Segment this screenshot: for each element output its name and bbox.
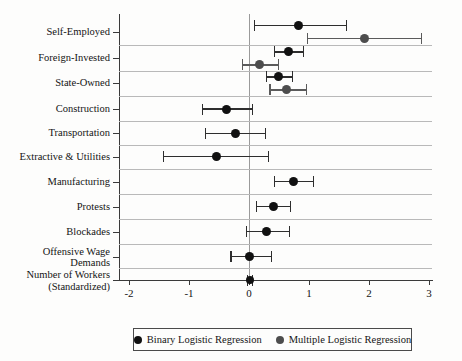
y-axis-label-manufacturing: Manufacturing [48,176,110,188]
confidence-interval-cap [230,251,231,262]
x-axis-tick [369,280,370,285]
confidence-interval-cap [278,59,279,70]
y-axis-label-state-owned: State-Owned [55,78,110,90]
x-axis-tick [129,280,130,285]
confidence-interval-cap [254,20,255,31]
confidence-interval-cap [274,46,275,57]
x-axis-tick-label: -1 [184,287,193,299]
legend-label-binary: Binary Logistic Regression [147,334,262,345]
y-axis-tick [113,83,119,84]
point-estimate-dot[interactable] [255,60,264,69]
legend-item-multiple[interactable]: Multiple Logistic Regression [276,334,412,345]
y-axis-label-line: Self-Employed [46,26,110,38]
x-axis-tick [429,280,430,285]
confidence-interval-cap [266,71,267,82]
confidence-interval-cap [268,151,269,162]
plot-area: Self-EmployedForeign-InvestedState-Owned… [119,14,432,280]
confidence-interval-cap [421,33,422,44]
y-axis-label-line: Construction [56,103,110,115]
y-axis-tick [113,58,119,59]
legend-item-binary[interactable]: Binary Logistic Regression [134,334,262,345]
confidence-interval-cap [290,201,291,212]
y-axis-tick [113,232,119,233]
y-axis-tick [113,280,119,281]
gridline [119,194,432,195]
y-axis-tick [113,182,119,183]
point-estimate-dot[interactable] [294,21,303,30]
x-axis-tick [309,280,310,285]
confidence-interval-cap [306,84,307,95]
confidence-interval-cap [256,201,257,212]
gridline [119,244,432,245]
y-axis-label-transportation: Transportation [49,128,110,140]
confidence-interval-cap [242,59,243,70]
y-axis-label-line: Foreign-Invested [38,53,110,65]
y-axis-label-line: Number of Workers [26,269,110,281]
gridline [119,145,432,146]
confidence-interval-cap [269,84,270,95]
y-axis-tick [113,133,119,134]
y-axis-label-line: State-Owned [55,78,110,90]
y-axis-label-protests: Protests [77,201,110,213]
y-axis-label-blockades: Blockades [66,226,110,238]
y-axis-label-line: Protests [77,201,110,213]
y-axis-label-line: (Standardized) [26,280,110,292]
x-axis-tick-label: 0 [246,287,252,299]
y-axis-label-line: Extractive & Utilities [20,151,110,163]
point-estimate-dot[interactable] [274,72,283,81]
confidence-interval-cap [303,46,304,57]
point-estimate-dot[interactable] [212,152,221,161]
y-axis-tick [113,207,119,208]
point-estimate-dot[interactable] [245,252,254,261]
point-estimate-dot[interactable] [222,105,231,114]
y-axis-label-offensive-wage-demands: Offensive WageDemands [43,245,110,268]
point-estimate-dot[interactable] [262,227,271,236]
legend-marker-circle-icon [276,336,284,344]
point-estimate-dot[interactable] [269,202,278,211]
x-axis-tick-label: 1 [306,287,312,299]
gridline [119,219,432,220]
confidence-interval-cap [307,33,308,44]
point-estimate-dot[interactable] [289,177,298,186]
legend: Binary Logistic Regression Multiple Logi… [133,328,412,351]
y-axis-tick [113,257,119,258]
coefficient-plot-figure: Self-EmployedForeign-InvestedState-Owned… [0,0,462,361]
y-axis-label-line: Blockades [66,226,110,238]
confidence-interval-cap [292,71,293,82]
point-estimate-dot[interactable] [231,129,240,138]
confidence-interval-cap [346,20,347,31]
x-axis-tick-label: 2 [366,287,372,299]
confidence-interval-cap [205,128,206,139]
point-estimate-dot[interactable] [360,34,369,43]
confidence-interval-cap [202,104,203,115]
y-axis-label-line: Manufacturing [48,176,110,188]
confidence-interval-cap [246,226,247,237]
gridline [119,268,432,269]
y-axis-tick [113,109,119,110]
confidence-interval-cap [163,151,164,162]
gridline [119,45,432,46]
legend-label-multiple: Multiple Logistic Regression [289,334,412,345]
y-axis-label-construction: Construction [56,103,110,115]
x-axis-tick [189,280,190,285]
x-axis-tick-label: 3 [426,287,432,299]
gridline [119,169,432,170]
legend-marker-circle-icon [134,336,142,344]
y-axis-label-foreign-invested: Foreign-Invested [38,53,110,65]
y-axis-label-extractive-utilities: Extractive & Utilities [20,151,110,163]
confidence-interval-cap [289,226,290,237]
y-axis-label-line: Demands [43,257,110,269]
point-estimate-dot[interactable] [284,47,293,56]
y-axis-label-self-employed: Self-Employed [46,26,110,38]
x-axis-spine [119,280,433,281]
zero-reference-line [249,14,250,280]
point-estimate-dot[interactable] [246,276,254,284]
y-axis-tick [113,32,119,33]
gridline [119,96,432,97]
y-axis-label-number-of-workers-standardized: Number of Workers(Standardized) [26,269,110,292]
point-estimate-dot[interactable] [282,85,291,94]
y-axis-label-line: Transportation [49,128,110,140]
x-axis-tick-label: -2 [124,287,133,299]
confidence-interval-cap [252,104,253,115]
gridline [119,121,432,122]
